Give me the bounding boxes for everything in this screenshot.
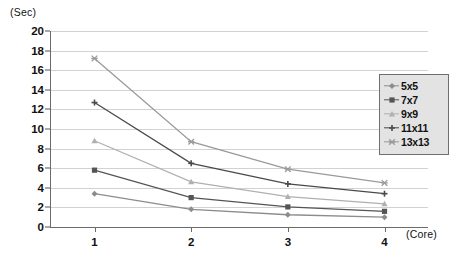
data-point-marker xyxy=(382,214,388,220)
x-tick-mark xyxy=(288,227,289,232)
data-point-marker xyxy=(189,195,194,200)
y-tick-label: 12 xyxy=(31,103,44,115)
y-tick-label: 4 xyxy=(38,182,44,194)
x-tick-mark xyxy=(385,227,386,232)
data-point-marker xyxy=(91,138,97,144)
y-tick-label: 18 xyxy=(31,45,44,57)
series-line xyxy=(95,103,385,194)
legend-item[interactable]: 9x9 xyxy=(384,107,445,121)
legend-marker-icon xyxy=(384,95,399,105)
data-point-marker xyxy=(91,56,97,62)
legend-label: 5x5 xyxy=(401,80,418,92)
chart-legend: 5x57x79x911x1113x13 xyxy=(379,74,449,155)
legend-item[interactable]: 13x13 xyxy=(384,135,445,149)
series-line xyxy=(95,194,385,218)
x-axis-unit-label: (Core) xyxy=(406,228,437,240)
y-tick-label: 14 xyxy=(31,84,44,96)
y-tick-label: 6 xyxy=(38,162,44,174)
plot-area: 02468101214161820 1234 xyxy=(51,31,428,227)
data-point-marker xyxy=(92,191,98,197)
y-tick-label: 8 xyxy=(38,143,44,155)
x-tick-mark xyxy=(95,227,96,232)
data-point-marker xyxy=(285,181,291,187)
data-point-marker xyxy=(285,212,291,218)
data-point-marker xyxy=(285,166,291,172)
data-point-marker xyxy=(188,139,194,145)
y-axis-unit-label: (Sec) xyxy=(10,6,36,18)
data-point-marker xyxy=(188,206,194,212)
legend-label: 9x9 xyxy=(401,108,418,120)
data-point-marker xyxy=(381,180,387,186)
legend-marker-icon xyxy=(384,109,399,119)
x-axis-line xyxy=(50,227,428,228)
legend-item[interactable]: 5x5 xyxy=(384,79,445,93)
legend-label: 13x13 xyxy=(401,136,429,148)
series-line xyxy=(95,141,385,204)
x-tick-label: 2 xyxy=(188,236,194,248)
series-lines xyxy=(51,31,428,227)
y-tick-label: 16 xyxy=(31,64,44,76)
data-point-marker xyxy=(285,204,290,209)
x-tick-mark xyxy=(191,227,192,232)
y-tick-label: 20 xyxy=(31,25,44,37)
y-tick-label: 10 xyxy=(31,123,44,135)
data-point-marker xyxy=(382,209,387,214)
legend-marker-icon xyxy=(384,123,399,133)
data-point-marker xyxy=(92,100,98,106)
legend-label: 11x11 xyxy=(401,122,428,134)
series-line xyxy=(95,58,385,182)
line-chart-figure: (Sec) 02468101214161820 1234 (Core) 5x57… xyxy=(0,0,460,261)
data-point-marker xyxy=(382,191,388,197)
legend-label: 7x7 xyxy=(401,94,418,106)
legend-item[interactable]: 11x11 xyxy=(384,121,445,135)
data-point-marker xyxy=(188,160,194,166)
legend-item[interactable]: 7x7 xyxy=(384,93,445,107)
x-tick-label: 3 xyxy=(285,236,291,248)
x-tick-label: 1 xyxy=(91,236,97,248)
x-tick-label: 4 xyxy=(381,236,387,248)
data-point-marker xyxy=(92,168,97,173)
y-tick-label: 2 xyxy=(38,201,44,213)
y-tick-label: 0 xyxy=(38,221,44,233)
legend-marker-icon xyxy=(384,81,399,91)
legend-marker-icon xyxy=(384,137,399,147)
